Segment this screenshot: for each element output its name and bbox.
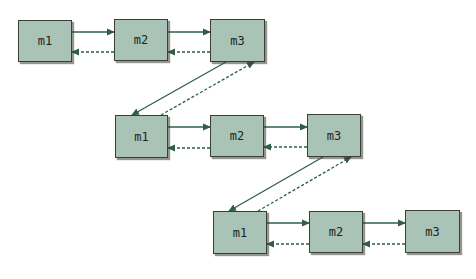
- node-r1-m3: m3: [210, 19, 265, 62]
- node-label: m1: [38, 34, 52, 48]
- node-r1-m2: m2: [114, 19, 168, 61]
- node-label: m3: [327, 129, 341, 143]
- node-label: m1: [233, 226, 247, 240]
- node-r2-m2: m2: [210, 115, 264, 157]
- node-r2-m1: m1: [115, 115, 168, 158]
- node-label: m1: [134, 130, 148, 144]
- node-label: m3: [230, 34, 244, 48]
- node-r1-m1: m1: [18, 20, 72, 62]
- forward-arrow-r1-m3-to-r2-m1: [132, 62, 226, 115]
- node-r2-m3: m3: [307, 114, 361, 157]
- node-r3-m2: m2: [309, 211, 363, 253]
- node-label: m3: [425, 225, 439, 239]
- forward-arrow-r2-m3-to-r3-m1: [229, 157, 323, 211]
- return-arrow-r2-m1-to-r1-m3: [161, 62, 254, 115]
- node-r3-m3: m3: [405, 210, 460, 253]
- node-r3-m1: m1: [213, 211, 267, 254]
- return-arrow-r3-m1-to-r2-m3: [258, 157, 351, 211]
- node-label: m2: [230, 129, 244, 143]
- node-label: m2: [134, 33, 148, 47]
- diagram-canvas: m1m2m3m1m2m3m1m2m3: [0, 0, 476, 279]
- node-label: m2: [329, 225, 343, 239]
